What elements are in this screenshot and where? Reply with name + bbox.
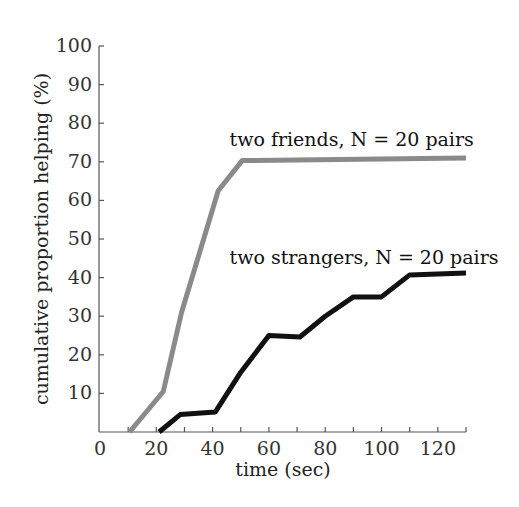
x-axis-label: time (sec) — [235, 458, 330, 480]
y-tick-label: 60 — [68, 188, 92, 210]
x-tick-label: 20 — [144, 437, 168, 459]
y-tick-label: 50 — [68, 227, 92, 249]
x-axis: 020406080100120 — [94, 427, 466, 459]
y-tick-label: 30 — [68, 304, 92, 326]
y-tick-label: 10 — [68, 381, 92, 403]
x-tick-label: 80 — [313, 437, 337, 459]
line-chart: 102030405060708090100 020406080100120 tw… — [0, 0, 519, 507]
x-tick-label: 60 — [257, 437, 281, 459]
label-two-strangers: two strangers, N = 20 pairs — [230, 246, 499, 268]
y-axis-label: cumulative proportion helping (%) — [30, 73, 52, 405]
x-tick-label: 40 — [201, 437, 225, 459]
series-layer — [130, 158, 466, 432]
y-tick-label: 40 — [68, 266, 92, 288]
x-tick-label: 100 — [363, 437, 399, 459]
x-tick-label: 0 — [94, 437, 106, 459]
x-tick-label: 120 — [420, 437, 456, 459]
label-two-friends: two friends, N = 20 pairs — [230, 128, 474, 150]
series-two-strangers — [159, 273, 466, 432]
series-two-friends — [130, 158, 466, 432]
y-tick-label: 90 — [68, 73, 92, 95]
y-axis: 102030405060708090100 — [56, 34, 104, 432]
y-tick-label: 20 — [68, 343, 92, 365]
y-tick-label: 100 — [56, 34, 92, 56]
y-tick-label: 80 — [68, 111, 92, 133]
y-tick-label: 70 — [68, 150, 92, 172]
annotations: two friends, N = 20 pairstwo strangers, … — [230, 128, 499, 268]
